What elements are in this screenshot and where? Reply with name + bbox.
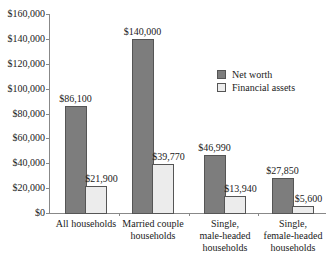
legend-item-financial-assets: Financial assets <box>217 81 295 94</box>
y-tick <box>46 64 50 65</box>
y-tick-label: $40,000 <box>13 157 46 168</box>
y-tick <box>46 39 50 40</box>
y-tick-label: $140,000 <box>8 33 46 44</box>
net-worth-bar <box>204 155 226 214</box>
category-label-line: households <box>248 242 335 254</box>
y-tick <box>46 138 50 139</box>
y-tick-label: $0 <box>35 207 45 218</box>
legend-label: Net worth <box>232 69 272 80</box>
net-worth-bar <box>272 178 294 214</box>
y-tick-label: $20,000 <box>13 182 46 193</box>
y-tick-label: $100,000 <box>8 83 46 94</box>
value-label: $27,850 <box>266 165 299 176</box>
x-tick <box>189 213 190 216</box>
value-label: $13,940 <box>224 183 257 194</box>
legend-item-net-worth: Net worth <box>217 68 295 81</box>
value-label: $5,600 <box>295 193 323 204</box>
legend-label: Financial assets <box>232 82 295 93</box>
y-tick-label: $60,000 <box>13 132 46 143</box>
value-label: $140,000 <box>124 26 162 37</box>
y-tick <box>46 188 50 189</box>
financial-assets-bar <box>85 186 107 214</box>
y-tick-label: $160,000 <box>8 8 46 19</box>
net-worth-bar <box>132 39 154 214</box>
category-label-line: female-headed <box>248 230 335 242</box>
financial-assets-bar <box>152 164 174 214</box>
value-label: $21,900 <box>85 173 118 184</box>
financial-assets-swatch <box>217 83 226 92</box>
x-tick <box>258 213 259 216</box>
net-worth-bar <box>65 106 87 214</box>
value-label: $86,100 <box>59 93 92 104</box>
financial-assets-bar <box>224 196 246 214</box>
category-label: Single,female-headedhouseholds <box>248 218 335 254</box>
y-tick <box>46 89 50 90</box>
financial-assets-bar <box>292 206 314 214</box>
y-tick <box>46 14 50 15</box>
legend: Net worth Financial assets <box>217 68 295 94</box>
x-tick <box>119 213 120 216</box>
y-tick <box>46 114 50 115</box>
y-tick-label: $120,000 <box>8 58 46 69</box>
net-worth-swatch <box>217 70 226 79</box>
category-label-line: Single, <box>248 218 335 230</box>
value-label: $46,990 <box>198 142 231 153</box>
y-tick <box>46 163 50 164</box>
bar-chart: $0$20,000$40,000$60,000$80,000$100,000$1… <box>0 0 335 258</box>
value-label: $39,770 <box>152 151 185 162</box>
y-tick-label: $80,000 <box>13 108 46 119</box>
y-tick <box>46 213 50 214</box>
